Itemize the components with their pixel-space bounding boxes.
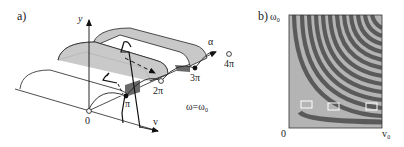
v-axis-label: v <box>153 116 158 127</box>
tick-4pi: 4π <box>224 58 234 69</box>
point-4pi <box>227 52 232 57</box>
panel-a: a) y v α 0 π <box>15 9 234 131</box>
panel-a-label: a) <box>17 9 26 23</box>
figure: a) y v α 0 π <box>0 0 404 147</box>
panel-b: b) ω₀ 0 v₀ <box>258 9 391 139</box>
point-0 <box>87 109 92 114</box>
tick-3pi: 3π <box>190 72 200 83</box>
x-max-label: v₀ <box>382 128 391 139</box>
v-axis-arrow <box>140 127 158 131</box>
y-axis-label: y <box>77 13 83 24</box>
origin-label: 0 <box>281 128 286 139</box>
point-2pi <box>159 79 164 84</box>
ridge-front <box>20 70 127 96</box>
panel-b-label: b) <box>258 9 268 23</box>
tick-pi: π <box>125 98 130 109</box>
condition-label: ω=ω₀ <box>186 101 209 112</box>
alpha-axis-label: α <box>208 36 214 47</box>
ridge-gray <box>58 42 168 81</box>
tick-0: 0 <box>85 115 90 126</box>
y-max-label: ω₀ <box>270 11 281 22</box>
trajectory-3 <box>103 73 117 83</box>
point-3pi <box>193 66 198 71</box>
tick-2pi: 2π <box>153 85 163 96</box>
